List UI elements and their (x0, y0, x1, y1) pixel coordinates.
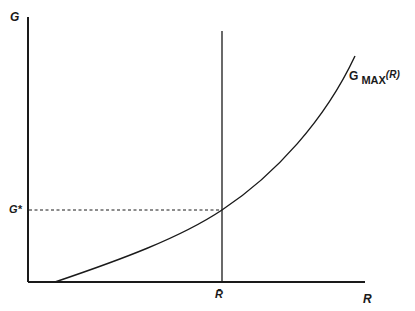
diagram-canvas (0, 0, 415, 311)
curve-label: G MAX(R) (349, 70, 400, 82)
g-star-label: G* (9, 204, 22, 215)
x-axis-label: R (363, 293, 372, 305)
r-bar-label: R̄ (215, 289, 223, 300)
curve-label-sub: MAX (361, 74, 385, 86)
g-max-curve (55, 56, 355, 282)
y-axis-label: G (10, 11, 19, 23)
curve-label-arg: (R) (386, 69, 400, 80)
curve-label-main: G (349, 69, 358, 83)
